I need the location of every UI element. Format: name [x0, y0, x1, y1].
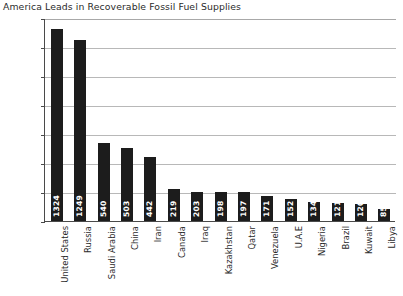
- y-tick-mark: [41, 48, 45, 49]
- bar-value-label: 171: [262, 201, 271, 217]
- bar: 203: [191, 192, 203, 221]
- bar: 219: [168, 189, 180, 221]
- gridline: [45, 48, 396, 49]
- bar-value-label: 152: [286, 201, 295, 217]
- bar-value-label: 198: [216, 201, 225, 217]
- x-category-label: United States: [60, 226, 70, 283]
- bar: 1324: [51, 29, 63, 221]
- plot-area: 0200400600800100012001400132412495405034…: [44, 19, 395, 222]
- x-category-label: Brazil: [341, 226, 351, 249]
- bar-value-label: 1324: [52, 195, 61, 217]
- bar-value-label: 540: [99, 201, 108, 217]
- gridline: [45, 77, 396, 78]
- y-tick-mark: [41, 193, 45, 194]
- x-category-label: China: [130, 226, 140, 250]
- y-tick-mark: [41, 77, 45, 78]
- gridline: [45, 19, 396, 20]
- y-tick-mark: [41, 135, 45, 136]
- x-category-label: Saudi Arabia: [107, 226, 117, 279]
- x-category-label: Iraq: [200, 226, 210, 242]
- bar: 152: [285, 199, 297, 221]
- gridline: [45, 135, 396, 136]
- bar-value-label: 203: [192, 201, 201, 217]
- bar: 540: [98, 143, 110, 221]
- bar: 121: [332, 203, 344, 221]
- x-category-label: Canada: [177, 226, 187, 258]
- bar: 1249: [74, 40, 86, 221]
- x-category-label: Kazakhstan: [224, 226, 234, 274]
- bar: 134: [308, 202, 320, 221]
- x-category-label: U.A.E: [294, 226, 304, 248]
- bar: 198: [215, 192, 227, 221]
- bar-value-label: 120: [356, 201, 365, 217]
- y-tick-mark: [41, 19, 45, 20]
- y-tick-mark: [41, 106, 45, 107]
- x-category-label: Venezuela: [270, 226, 280, 269]
- chart-figure: America Leads in Recoverable Fossil Fuel…: [0, 0, 403, 296]
- bar: 171: [261, 196, 273, 221]
- y-tick-mark: [41, 164, 45, 165]
- x-category-label: Kuwait: [364, 226, 374, 254]
- chart-title: America Leads in Recoverable Fossil Fuel…: [3, 1, 241, 12]
- bar-value-label: 134: [309, 201, 318, 217]
- bar-value-label: 442: [145, 201, 154, 217]
- bar-value-label: 85: [379, 206, 388, 217]
- y-tick-mark: [41, 222, 45, 223]
- x-category-label: Iran: [153, 226, 163, 242]
- bar: 120: [355, 204, 367, 221]
- x-category-label: Qatar: [247, 226, 257, 250]
- x-category-label: Russia: [83, 226, 93, 253]
- bar: 442: [144, 157, 156, 221]
- gridline: [45, 106, 396, 107]
- bar: 85: [378, 209, 390, 221]
- bar-value-label: 503: [122, 201, 131, 217]
- bar-value-label: 219: [169, 201, 178, 217]
- x-category-label: Nigeria: [317, 226, 327, 256]
- bar-value-label: 197: [239, 201, 248, 217]
- bar: 503: [121, 148, 133, 221]
- bar: 197: [238, 192, 250, 221]
- bar-value-label: 121: [333, 201, 342, 217]
- x-category-label: Libya: [387, 226, 397, 248]
- bar-value-label: 1249: [75, 195, 84, 217]
